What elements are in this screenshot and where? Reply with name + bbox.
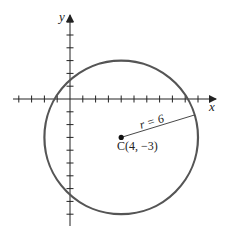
- center-label: C(4, −3): [117, 139, 158, 153]
- circle-diagram: x y C(4, −3) r = 6: [0, 0, 228, 236]
- y-axis-label: y: [57, 9, 65, 24]
- x-axis-label: x: [208, 99, 215, 114]
- radius-label: r = 6: [138, 111, 166, 132]
